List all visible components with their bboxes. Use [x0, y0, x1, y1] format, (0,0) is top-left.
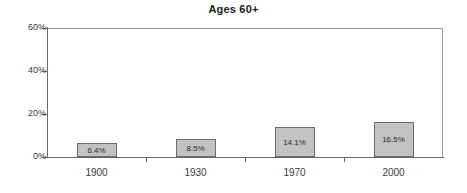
y-axis-label: 0%	[0, 151, 46, 161]
chart-title: Ages 60+	[0, 3, 467, 15]
bar: 16.5%	[374, 122, 414, 157]
bar: 8.5%	[176, 139, 216, 157]
bar-value-label: 14.1%	[276, 138, 314, 147]
x-axis-tick	[146, 158, 147, 162]
y-axis-label: 40%	[0, 65, 46, 75]
bar-value-label: 8.5%	[177, 144, 215, 153]
x-axis-label: 1900	[57, 167, 137, 178]
y-axis-label: 60%	[0, 22, 46, 32]
bar: 14.1%	[275, 127, 315, 157]
y-axis-label: 20%	[0, 108, 46, 118]
x-axis-tick	[344, 158, 345, 162]
bar-value-label: 16.5%	[375, 135, 413, 144]
y-axis-line	[47, 27, 48, 158]
x-axis-label: 1970	[255, 167, 335, 178]
x-axis-label: 1930	[156, 167, 236, 178]
bar-value-label: 6.4%	[78, 146, 116, 155]
bar: 6.4%	[77, 143, 117, 157]
x-axis-tick	[245, 158, 246, 162]
x-axis-label: 2000	[354, 167, 434, 178]
bar-chart: Ages 60+ 0%20%40%60% 1900193019702000 6.…	[0, 0, 467, 193]
